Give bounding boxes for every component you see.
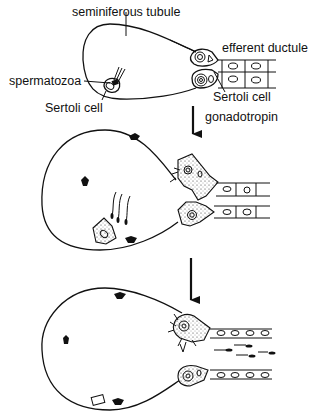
cell-blob: [112, 398, 124, 405]
spermatozoa-stage-2: [111, 192, 131, 225]
tubule-outline-stage-3: [42, 288, 182, 410]
cell-blob: [114, 292, 126, 299]
label-sertoli-cell-right: Sertoli cell: [213, 90, 271, 104]
sertoli-cell-left: [104, 67, 125, 92]
seminiferous-tubule-outline: [83, 24, 196, 99]
label-efferent-ductule: efferent ductule: [222, 41, 308, 55]
label-spermatozoa: spermatozoa: [9, 74, 81, 88]
sertoli-cell-upper-enlarged: [178, 154, 218, 200]
label-sertoli-cell-left: Sertoli cell: [45, 101, 103, 115]
stage-1-initial: seminiferous tubule spermatozoa Sertoli …: [9, 5, 308, 115]
stage-3-sperm-release: [42, 288, 276, 410]
released-spermatozoa: [214, 344, 276, 357]
label-seminiferous-tubule: seminiferous tubule: [72, 5, 180, 19]
efferent-ductule: [218, 60, 276, 88]
cell-blob: [63, 335, 69, 344]
sertoli-cell-upper-stage-3: [168, 314, 210, 352]
sertoli-cell-lower-stage-3: [178, 365, 208, 386]
small-cell: [91, 395, 105, 406]
diagram: seminiferous tubule spermatozoa Sertoli …: [0, 0, 323, 420]
stage-2-gonadotropin-response: [42, 130, 270, 250]
cell-blob: [125, 236, 137, 243]
tubule-neck-line: [170, 40, 196, 52]
sertoli-cells-exit: [191, 49, 218, 88]
efferent-ductule-stage-3: [210, 329, 272, 379]
efferent-ductule-stage-2: [214, 183, 270, 218]
cell-blob: [81, 176, 89, 186]
label-gonadotropin: gonadotropin: [205, 110, 278, 124]
cell-blob: [129, 133, 140, 140]
